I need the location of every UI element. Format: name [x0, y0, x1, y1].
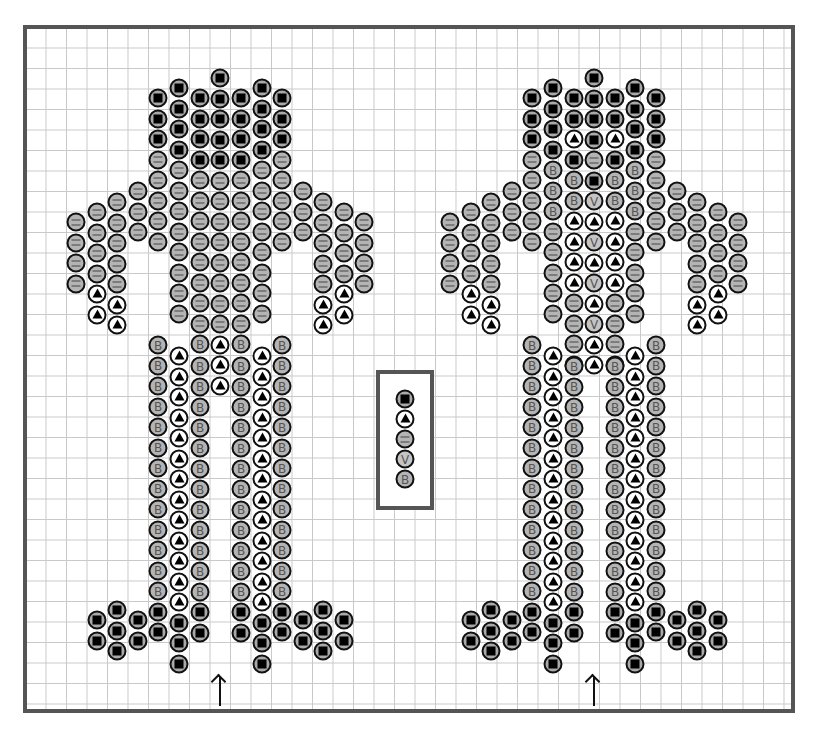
grey-b-bead: B [647, 336, 666, 355]
white-triangle-bead [170, 511, 189, 530]
grey-b-bead: B [606, 171, 625, 190]
grey-equals-bead [253, 161, 272, 180]
grey-equals-bead [108, 254, 127, 273]
grey-equals-bead [626, 284, 645, 303]
dark-square-bead [232, 150, 251, 169]
dark-square-bead [544, 613, 563, 632]
grey-b-bead: B [606, 541, 625, 560]
dark-square-bead [170, 613, 189, 632]
white-triangle-bead [626, 490, 645, 509]
white-triangle-bead [606, 273, 625, 292]
white-triangle-bead [170, 531, 189, 550]
grey-b-bead: B [565, 582, 584, 601]
grey-equals-bead [149, 232, 168, 251]
grey-equals-bead [191, 212, 210, 231]
grey-b-bead: B [606, 418, 625, 437]
white-triangle-bead [211, 376, 230, 395]
grey-equals-bead [355, 254, 374, 273]
grey-equals-bead [355, 233, 374, 252]
grey-equals-bead [253, 243, 272, 262]
grey-b-bead: B [523, 582, 542, 601]
dark-square-bead [335, 611, 354, 630]
dark-square-bead [170, 654, 189, 673]
grey-equals-bead [523, 150, 542, 169]
dark-square-bead [253, 634, 272, 653]
grey-b-bead: B [149, 500, 168, 519]
white-triangle-bead [253, 449, 272, 468]
grey-equals-bead [108, 213, 127, 232]
dark-square-bead [626, 79, 645, 98]
grey-b-bead: B [523, 479, 542, 498]
grey-b-bead: B [523, 336, 542, 355]
dark-square-bead [211, 110, 230, 129]
white-triangle-bead [253, 429, 272, 448]
dark-square-bead [585, 110, 604, 129]
dark-square-bead [191, 623, 210, 642]
dark-square-bead [606, 150, 625, 169]
white-triangle-bead [544, 552, 563, 571]
grey-equals-bead [729, 274, 748, 293]
dark-square-bead [626, 654, 645, 673]
white-triangle-bead [544, 408, 563, 427]
grey-equals-bead [191, 191, 210, 210]
grey-equals-bead [544, 263, 563, 282]
start-arrow-right [593, 676, 595, 706]
grey-equals-bead [503, 223, 522, 242]
dark-square-bead [170, 140, 189, 159]
grey-b-bead: B [232, 541, 251, 560]
grey-b-bead: B [232, 521, 251, 540]
white-triangle-bead [626, 572, 645, 591]
dark-square-bead [191, 89, 210, 108]
grey-equals-bead [273, 150, 292, 169]
dark-square-bead [544, 79, 563, 98]
grey-equals-bead [647, 150, 666, 169]
dark-square-bead [626, 120, 645, 139]
grey-b-bead: B [149, 582, 168, 601]
white-triangle-bead [170, 429, 189, 448]
grey-equals-bead [335, 244, 354, 263]
dark-square-bead [647, 109, 666, 128]
dark-square-bead [129, 611, 148, 630]
grey-equals-bead [253, 304, 272, 323]
grey-equals-bead [626, 304, 645, 323]
grey-equals-bead [606, 314, 625, 333]
grey-equals-bead [191, 314, 210, 333]
grey-b-bead: B [565, 357, 584, 376]
grey-equals-bead [709, 244, 728, 263]
dark-square-bead [314, 601, 333, 620]
dark-square-bead [626, 99, 645, 118]
dark-square-bead [129, 631, 148, 650]
white-triangle-bead [709, 305, 728, 324]
grey-equals-bead [523, 171, 542, 190]
grey-b-bead: B [606, 377, 625, 396]
dark-square-bead [606, 623, 625, 642]
grey-equals-bead [149, 171, 168, 190]
grey-b-bead: B [606, 459, 625, 478]
grey-b-bead: B [191, 357, 210, 376]
grey-b-bead: B [544, 202, 563, 221]
grey-equals-bead [523, 232, 542, 251]
white-triangle-bead [253, 511, 272, 530]
dark-square-bead [647, 623, 666, 642]
grey-equals-bead [88, 244, 107, 263]
dark-square-bead [273, 89, 292, 108]
grey-b-bead: B [647, 479, 666, 498]
grey-equals-bead [170, 284, 189, 303]
grey-equals-bead [544, 243, 563, 262]
white-triangle-bead [544, 449, 563, 468]
white-triangle-bead [709, 285, 728, 304]
dark-square-bead [503, 631, 522, 650]
grey-equals-bead [544, 222, 563, 241]
grey-equals-bead [606, 335, 625, 354]
dark-square-bead [273, 602, 292, 621]
dark-square-bead [688, 601, 707, 620]
dark-square-bead [273, 130, 292, 149]
white-triangle-bead [544, 367, 563, 386]
grey-equals-bead [253, 222, 272, 241]
grey-b-bead: B [565, 459, 584, 478]
grey-equals-bead [273, 212, 292, 231]
grey-b-bead: B [149, 520, 168, 539]
grey-equals-bead [314, 193, 333, 212]
white-triangle-bead [544, 593, 563, 612]
white-triangle-bead [585, 212, 604, 231]
